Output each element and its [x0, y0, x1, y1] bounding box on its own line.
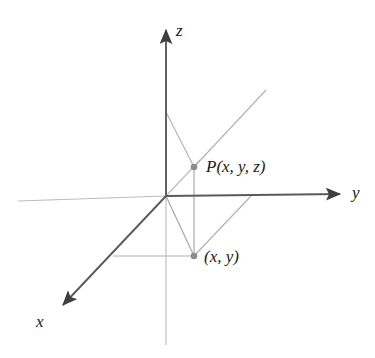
x-axis-positive [63, 196, 166, 305]
point-p-label-text: P(x, y, z) [206, 157, 265, 176]
point-p-label: P(x, y, z) [206, 158, 265, 175]
point-xy-label-text: (x, y) [204, 247, 239, 266]
y-axis-negative [18, 196, 166, 201]
y-axis-label: y [352, 184, 360, 201]
helper-z-axis-to-point-p [166, 112, 194, 167]
helper-ray-through-point-p [194, 90, 266, 167]
x-axis-label: x [36, 313, 44, 330]
helper-origin-to-xy [166, 196, 194, 256]
y-axis-positive [166, 194, 340, 196]
point-xy-marker [191, 253, 198, 260]
axes-drawing [0, 0, 375, 358]
z-axis-label: z [176, 22, 183, 39]
coordinate-system-figure: z y x P(x, y, z) (x, y) [0, 0, 375, 358]
point-p-marker [191, 164, 198, 171]
point-xy-label: (x, y) [204, 248, 239, 265]
